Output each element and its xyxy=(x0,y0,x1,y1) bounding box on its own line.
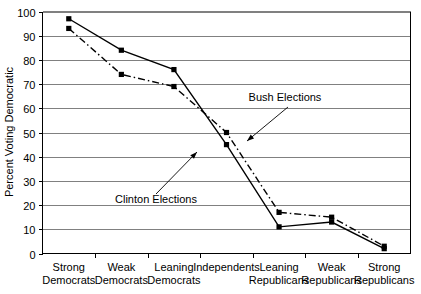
line-chart: 0102030405060708090100 StrongDemocratsWe… xyxy=(0,0,421,294)
data-point-marker xyxy=(382,244,387,249)
y-tick-label: 10 xyxy=(23,224,35,236)
x-tick-label-line: Democrats xyxy=(147,274,201,286)
chart-container: 0102030405060708090100 StrongDemocratsWe… xyxy=(0,0,421,294)
y-tick-label: 70 xyxy=(23,79,35,91)
x-tick-label-line: Strong xyxy=(368,261,400,273)
x-tick-label-line: Independents xyxy=(193,261,260,273)
data-point-marker xyxy=(276,224,281,229)
x-tick-label-line: Strong xyxy=(53,261,85,273)
y-tick-label: 30 xyxy=(23,176,35,188)
annotation-label: Clinton Elections xyxy=(115,193,197,205)
x-tick-label-line: Weak xyxy=(107,261,135,273)
chart-background xyxy=(0,0,421,294)
data-point-marker xyxy=(171,67,176,72)
data-point-marker xyxy=(119,48,124,53)
y-tick-label: 20 xyxy=(23,200,35,212)
data-point-marker xyxy=(66,26,71,31)
y-tick-label: 60 xyxy=(23,103,35,115)
data-point-marker xyxy=(119,72,124,77)
x-tick-label-line: Republicans xyxy=(354,274,415,286)
data-point-marker xyxy=(276,210,281,215)
y-tick-label: 80 xyxy=(23,55,35,67)
y-tick-label: 90 xyxy=(23,31,35,43)
y-tick-label: 0 xyxy=(29,249,35,261)
data-point-marker xyxy=(224,142,229,147)
data-point-marker xyxy=(66,16,71,21)
x-tick-label-line: Democrats xyxy=(42,274,96,286)
x-tick-label-line: Leaning xyxy=(259,261,298,273)
data-point-marker xyxy=(329,215,334,220)
y-tick-label: 40 xyxy=(23,152,35,164)
data-point-marker xyxy=(171,84,176,89)
annotation-label: Bush Elections xyxy=(249,91,322,103)
x-tick-label-line: Weak xyxy=(318,261,346,273)
x-tick-label: Independents xyxy=(193,261,260,273)
data-point-marker xyxy=(329,219,334,224)
y-axis-title: Percent Voting Democratic xyxy=(3,66,15,197)
x-tick-label-line: Democrats xyxy=(95,274,149,286)
x-tick-label-line: Leaning xyxy=(154,261,193,273)
y-tick-label: 50 xyxy=(23,128,35,140)
data-point-marker xyxy=(224,130,229,135)
y-tick-label: 100 xyxy=(17,7,35,19)
